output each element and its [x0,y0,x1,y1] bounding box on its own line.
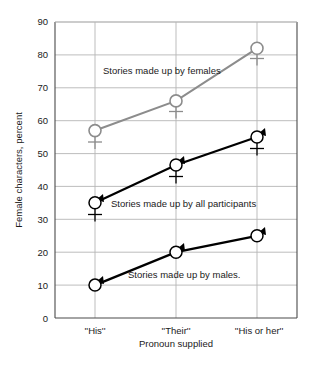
females-annotation: Stories made up by females [103,65,221,76]
y-tick-30: 30 [37,214,48,225]
chart-container: 90 80 70 60 50 40 30 20 10 0 [0,0,331,366]
females-point-his [89,125,101,137]
y-tick-70: 70 [37,82,48,93]
males-point-their [170,246,182,258]
y-axis-title: Female characters, percent [13,112,24,228]
y-tick-20: 20 [37,247,48,258]
males-point-his [89,279,101,291]
x-tick-his-or-her: ''His or her'' [235,325,284,336]
y-tick-60: 60 [37,115,48,126]
all-participants-point-his-or-her [251,131,263,143]
all-participants-annotation: Stories made up by all participants [111,198,256,209]
all-participants-point-his [89,197,101,209]
y-tick-90: 90 [37,16,48,27]
x-tick-their: ''Their'' [162,325,191,336]
females-point-their [170,95,182,107]
x-axis-title: Pronoun supplied [139,338,213,349]
y-tick-10: 10 [37,280,48,291]
females-point-his-or-her [251,42,263,54]
y-tick-50: 50 [37,148,48,159]
y-tick-80: 80 [37,49,48,60]
males-annotation: Stories made up by males. [128,269,240,280]
y-tick-40: 40 [37,181,48,192]
x-tick-his: ''His'' [85,325,106,336]
males-point-his-or-her [251,230,263,242]
all-participants-point-their [170,159,182,171]
line-chart: 90 80 70 60 50 40 30 20 10 0 [0,0,331,366]
y-tick-0: 0 [43,313,48,324]
